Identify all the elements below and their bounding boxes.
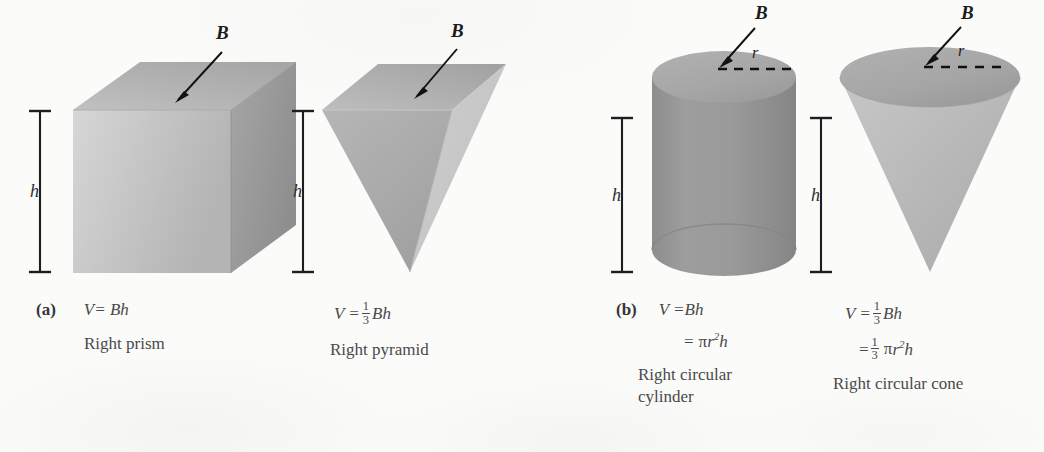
cone-formula2-eq: = <box>859 339 869 358</box>
cone-fraction-2: 13 <box>871 336 879 363</box>
prism-caption-block: (a) V= Bh Right prism <box>36 300 165 354</box>
cylinder-formula-line1: V =Bh <box>659 300 704 320</box>
cylinder-formula-line2: =πr2h <box>684 330 732 352</box>
cylinder-body <box>652 77 796 276</box>
cone-fraction-1: 13 <box>873 300 881 327</box>
right-circular-cone-panel: r B <box>828 0 1044 300</box>
cone-formula2-h: h <box>905 339 914 358</box>
cylinder-base-label: B <box>755 2 768 24</box>
prism-formula: V= Bh <box>84 300 129 320</box>
prism-height-label-right: h <box>293 181 302 202</box>
pyramid-fraction: 13 <box>362 300 370 327</box>
cylinder-name-line1: Right circular <box>638 365 732 385</box>
cone-radius-label: r <box>958 42 964 60</box>
right-pyramid-panel: B <box>300 0 530 300</box>
cone-formula1-tail: Bh <box>883 304 902 323</box>
prism-name: Right prism <box>84 334 165 354</box>
pyramid-base-label: B <box>451 20 464 42</box>
cone-frac1-denominator: 3 <box>873 313 881 327</box>
right-circular-cone-drawing <box>828 0 1044 300</box>
cone-base-label: B <box>961 2 974 24</box>
prism-height-label-left: h <box>30 181 39 202</box>
pyramid-caption-block: V =13Bh Right pyramid <box>334 300 429 360</box>
prism-base-label: B <box>216 22 229 44</box>
cylinder-formula2-h: h <box>719 332 728 351</box>
pyramid-frac-denominator: 3 <box>362 313 370 327</box>
cone-caption-block: V =13Bh =13πr2h Right circular cone <box>845 300 963 394</box>
pyramid-formula-v: V = <box>334 304 360 323</box>
right-circular-cylinder-drawing <box>600 0 840 300</box>
cone-formula-line2: =13πr2h <box>859 336 963 363</box>
cone-name: Right circular cone <box>833 374 963 394</box>
part-label-a: (a) <box>36 300 56 320</box>
right-prism-drawing <box>0 0 330 300</box>
cone-frac2-denominator: 3 <box>871 348 879 362</box>
part-label-b: (b) <box>616 300 637 320</box>
right-prism-panel: h h B <box>0 0 330 300</box>
prism-front-face <box>73 110 231 273</box>
cylinder-name-line2: cylinder <box>638 387 732 407</box>
cylinder-caption-block: (b) V =Bh =πr2h Right circular cylinder <box>616 300 732 407</box>
cylinder-formula2-eq: = <box>684 332 694 351</box>
right-pyramid-drawing <box>300 0 530 300</box>
pyramid-formula: V =13Bh <box>334 300 429 327</box>
cylinder-formula2-pi: π <box>699 332 708 351</box>
right-circular-cylinder-panel: h h r B <box>600 0 840 300</box>
pyramid-name: Right pyramid <box>330 340 429 360</box>
cylinder-height-label-left: h <box>612 185 621 206</box>
cone-frac1-numerator: 1 <box>873 300 881 313</box>
cylinder-radius-label: r <box>752 44 758 62</box>
cylinder-height-label-right: h <box>811 185 820 206</box>
pyramid-formula-tail: Bh <box>372 304 391 323</box>
volume-formulas-figure: h h B <box>0 0 1044 452</box>
cylinder-top-face <box>652 51 796 103</box>
cylinder-formula2-r: r <box>707 332 714 351</box>
cone-frac2-numerator: 1 <box>871 336 879 349</box>
pyramid-frac-numerator: 1 <box>362 300 370 313</box>
cone-formula-line1: V =13Bh <box>845 300 963 327</box>
cone-formula1-v: V = <box>845 304 871 323</box>
prism-formula-text: V= Bh <box>84 300 129 319</box>
